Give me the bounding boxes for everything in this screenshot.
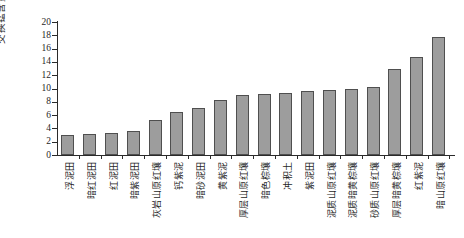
x-category-label: 红紫泥 [411, 161, 424, 190]
x-tick-mark [406, 156, 407, 159]
y-tick-label: 18 [23, 30, 51, 41]
y-axis-title: 交换锰含量/(mg/kg) [0, 0, 7, 44]
bar [170, 112, 183, 155]
x-tick-mark [231, 156, 232, 159]
x-tick-mark [275, 156, 276, 159]
x-category-label: 红泥田 [106, 161, 119, 190]
bar [345, 89, 358, 155]
y-tick-mark [52, 115, 57, 116]
y-tick-label: 20 [23, 17, 51, 28]
x-tick-mark [297, 156, 298, 159]
bar [105, 133, 118, 155]
y-tick-mark [52, 89, 57, 90]
x-category-label: 暗色棕壤 [259, 161, 272, 199]
y-tick-mark [52, 49, 57, 50]
bar [367, 87, 380, 155]
y-tick-mark [52, 128, 57, 129]
bar [388, 69, 401, 155]
x-category-label: 泥质山原红壤 [324, 161, 337, 218]
y-tick-label: 14 [23, 56, 51, 67]
x-tick-mark [144, 156, 145, 159]
x-category-label: 泥质暗黄棕壤 [346, 161, 359, 218]
bar [432, 37, 445, 155]
bar [236, 95, 249, 155]
x-category-label: 灰岩山原红壤 [150, 161, 163, 218]
x-tick-mark [166, 156, 167, 159]
y-tick-mark [52, 142, 57, 143]
y-tick-mark [52, 22, 57, 23]
x-tick-mark [210, 156, 211, 159]
y-tick-label: 16 [23, 43, 51, 54]
x-tick-mark [384, 156, 385, 159]
y-tick-mark [52, 35, 57, 36]
x-tick-mark [449, 156, 450, 159]
bar [258, 94, 271, 155]
bar [323, 90, 336, 155]
x-tick-mark [319, 156, 320, 159]
bar [83, 134, 96, 155]
x-category-label: 厚层山原红壤 [237, 161, 250, 218]
x-category-label: 浮泥田 [62, 161, 75, 190]
x-category-label: 钙紫泥 [171, 161, 184, 190]
x-category-label: 冲积土 [280, 161, 293, 190]
bar [61, 135, 74, 155]
x-tick-mark [340, 156, 341, 159]
x-category-label: 暗紫泥田 [128, 161, 141, 199]
x-tick-mark [188, 156, 189, 159]
x-category-label: 暗山原红壤 [433, 161, 446, 209]
x-category-label: 砂质山原红壤 [368, 161, 381, 218]
bar [410, 57, 423, 155]
x-axis-line [57, 155, 455, 156]
y-tick-mark [52, 75, 57, 76]
x-tick-mark [122, 156, 123, 159]
bar [279, 93, 292, 155]
x-tick-mark [362, 156, 363, 159]
x-category-label: 黄紫泥 [215, 161, 228, 190]
y-tick-label: 4 [23, 123, 51, 134]
y-axis-line [57, 21, 58, 155]
bar [127, 131, 140, 155]
x-category-label: 暗红泥田 [84, 161, 97, 199]
x-tick-mark [101, 156, 102, 159]
y-tick-label: 10 [23, 83, 51, 94]
exchangeable-mn-bar-chart: 交换锰含量/(mg/kg) 02468101214161820浮泥田暗红泥田红泥… [0, 0, 464, 238]
bar [214, 100, 227, 155]
x-category-label: 厚层暗黄棕壤 [389, 161, 402, 218]
y-tick-label: 12 [23, 70, 51, 81]
y-tick-mark [52, 102, 57, 103]
y-tick-label: 0 [23, 150, 51, 161]
x-tick-mark [79, 156, 80, 159]
x-tick-mark [253, 156, 254, 159]
x-category-label: 紫泥田 [302, 161, 315, 190]
y-tick-label: 2 [23, 136, 51, 147]
bar [192, 108, 205, 155]
x-category-label: 暗砂泥田 [193, 161, 206, 199]
y-tick-label: 8 [23, 96, 51, 107]
y-tick-mark [52, 155, 57, 156]
y-tick-label: 6 [23, 110, 51, 121]
y-tick-mark [52, 62, 57, 63]
x-tick-mark [428, 156, 429, 159]
bar [301, 91, 314, 155]
bar [149, 120, 162, 155]
